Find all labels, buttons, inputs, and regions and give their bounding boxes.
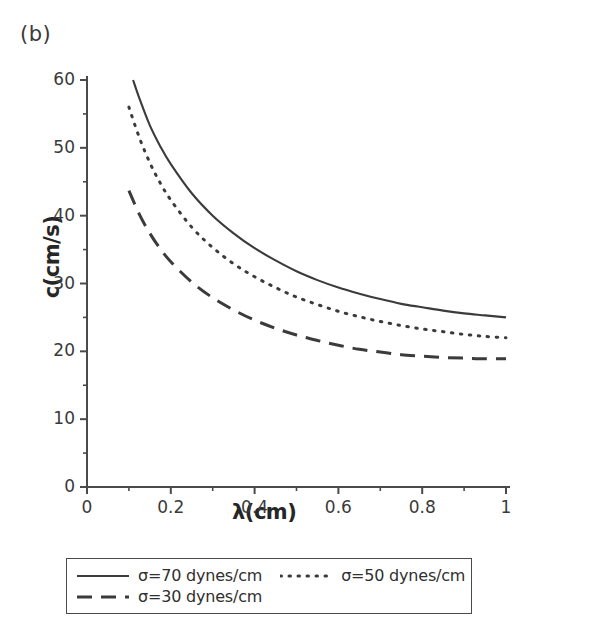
legend-label: σ=50 dynes/cm <box>341 566 465 585</box>
x-axis-tick-label: 0.8 <box>397 497 447 517</box>
plot-area: c(cm/s) λ(cm) 0102030405060 00.20.40.60.… <box>0 0 597 520</box>
y-axis-tick-label: 50 <box>25 137 75 157</box>
legend: σ=70 dynes/cmσ=50 dynes/cmσ=30 dynes/cm <box>66 558 472 614</box>
y-axis-tick-label: 60 <box>25 69 75 89</box>
series-curve-3 <box>129 191 506 359</box>
x-axis-tick-label: 0.2 <box>146 497 196 517</box>
series-curve-2 <box>129 107 506 338</box>
x-axis-tick-label: 0 <box>62 497 112 517</box>
y-axis-tick-label: 30 <box>25 273 75 293</box>
axes <box>80 76 510 494</box>
x-axis-tick-label: 0.6 <box>313 497 363 517</box>
y-axis-tick-label: 40 <box>25 205 75 225</box>
legend-label: σ=30 dynes/cm <box>138 587 262 606</box>
dotted-line-sample <box>280 570 332 582</box>
series-curve-1 <box>133 80 506 317</box>
legend-row: σ=70 dynes/cmσ=50 dynes/cm <box>77 565 463 586</box>
y-axis-tick-label: 20 <box>25 340 75 360</box>
plot-svg <box>0 0 597 520</box>
data-series <box>129 80 506 359</box>
dashed-line-sample <box>77 591 129 603</box>
solid-line-sample <box>77 570 129 582</box>
legend-entry: σ=70 dynes/cm <box>77 566 262 585</box>
y-axis-tick-label: 10 <box>25 408 75 428</box>
legend-entry: σ=30 dynes/cm <box>77 587 262 606</box>
x-axis-tick-label: 1 <box>481 497 531 517</box>
x-axis-tick-label: 0.4 <box>230 497 280 517</box>
legend-entry: σ=50 dynes/cm <box>280 566 465 585</box>
y-axis-tick-label: 0 <box>25 476 75 496</box>
figure-panel-b: (b) c(cm/s) λ(cm) 0102030405060 00.20.40… <box>0 0 597 639</box>
legend-label: σ=70 dynes/cm <box>138 566 262 585</box>
legend-row: σ=30 dynes/cm <box>77 586 463 607</box>
